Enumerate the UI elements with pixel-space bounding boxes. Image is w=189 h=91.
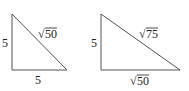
right-hypotenuse-radicand: 75 xyxy=(146,27,158,41)
right-horizontal-leg-radicand: 50 xyxy=(137,74,149,88)
right-horizontal-leg-label: √ 50 xyxy=(130,74,149,88)
sqrt-symbol: √ xyxy=(38,27,45,41)
right-triangle-shape xyxy=(101,14,180,70)
left-hypotenuse-radicand: 50 xyxy=(45,27,57,41)
diagram-canvas: 5 5 √ 50 5 √ 50 √ 75 xyxy=(0,0,189,91)
sqrt-symbol: √ xyxy=(139,27,146,41)
right-hypotenuse-label: √ 75 xyxy=(139,27,158,41)
sqrt-symbol: √ xyxy=(130,74,137,88)
left-triangle-shape xyxy=(12,14,67,70)
left-horizontal-leg-label: 5 xyxy=(35,73,41,87)
left-hypotenuse-label: √ 50 xyxy=(38,27,57,41)
right-triangle: 5 √ 50 √ 75 xyxy=(91,14,180,88)
right-vertical-leg-label: 5 xyxy=(91,36,97,50)
left-triangle: 5 5 √ 50 xyxy=(2,14,67,87)
left-vertical-leg-label: 5 xyxy=(2,36,8,50)
